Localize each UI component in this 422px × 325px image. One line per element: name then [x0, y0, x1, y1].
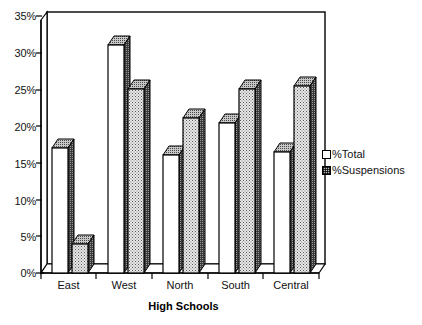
legend-item-suspensions[interactable]: %Suspensions [322, 164, 422, 176]
bar-west-suspensions[interactable] [128, 80, 150, 273]
chart-container: 35% 30% 25% 20% 15% 10% 5% 0% [0, 0, 422, 325]
bar-central-suspensions[interactable] [294, 77, 316, 273]
bar-east-suspensions[interactable] [72, 235, 94, 273]
bar-south-suspensions[interactable] [239, 80, 261, 273]
hatched-square-icon [322, 166, 331, 175]
bar-east-total[interactable] [52, 139, 74, 273]
white-square-icon [322, 150, 331, 159]
legend-label-suspensions: %Suspensions [332, 164, 405, 176]
x-tick-label-north: North [152, 279, 208, 291]
bar-south-total[interactable] [219, 114, 241, 273]
bar-central-total[interactable] [274, 143, 296, 273]
x-tick-label-south: South [208, 279, 263, 291]
chart-legend: %Total %Suspensions [322, 148, 422, 180]
legend-label-total: %Total [332, 148, 365, 160]
x-tick-label-central: Central [263, 279, 319, 291]
bar-north-suspensions[interactable] [183, 109, 205, 273]
bar-north-total[interactable] [163, 146, 185, 273]
x-tick-label-west: West [96, 279, 152, 291]
legend-item-total[interactable]: %Total [322, 148, 422, 160]
x-tick-label-east: East [41, 279, 96, 291]
x-axis-title: High Schools [41, 300, 326, 312]
bar-west-total[interactable] [108, 36, 130, 273]
